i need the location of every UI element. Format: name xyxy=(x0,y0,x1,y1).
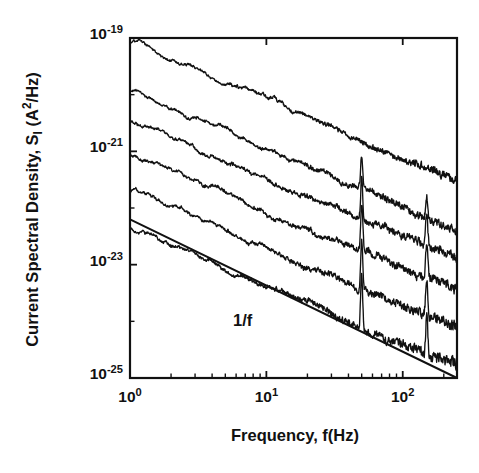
data-curves xyxy=(130,39,457,370)
y-axis-title-units-close: /Hz) xyxy=(23,72,41,102)
figure-panel: 10-19 10-21 10-23 10-25 100 101 102 1/f … xyxy=(0,0,479,473)
axis-ticks xyxy=(130,38,444,378)
y-tick-label-3: 10-25 xyxy=(55,365,123,383)
x-tick-label-0: 100 xyxy=(104,388,156,406)
y-axis-title-subscript: I xyxy=(31,131,45,134)
x-tick-label-2: 102 xyxy=(377,388,429,406)
y-axis-title-text: Current Spectral Density, S xyxy=(23,134,41,346)
y-tick-label-1: 10-21 xyxy=(55,138,123,156)
reference-line-1-over-f xyxy=(130,219,457,378)
y-tick-label-2: 10-23 xyxy=(55,252,123,270)
y-axis-title-superscript: 2 xyxy=(20,102,34,109)
annotation-one-over-f: 1/f xyxy=(233,311,252,330)
y-tick-label-0: 10-19 xyxy=(55,25,123,43)
y-axis-title-units-open: (A xyxy=(23,109,41,131)
y-axis-title: Current Spectral Density, SI (A2/Hz) xyxy=(23,30,42,390)
x-tick-label-1: 101 xyxy=(240,388,292,406)
x-axis-title: Frequency, f(Hz) xyxy=(130,426,460,445)
x-axis-title-text: Frequency, f(Hz) xyxy=(231,426,359,444)
